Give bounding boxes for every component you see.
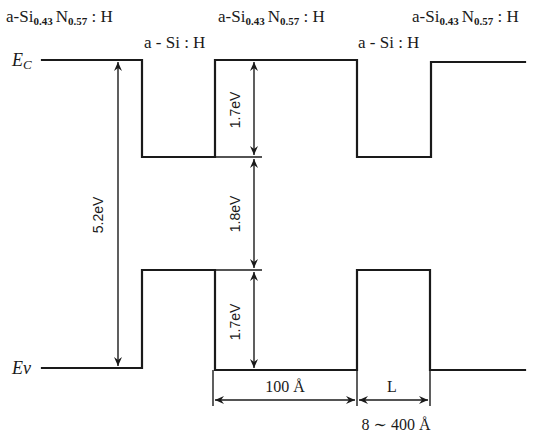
valence-band-edge bbox=[42, 270, 525, 370]
label-ec: EC bbox=[11, 50, 32, 72]
label-barrier-left: a-Si0.43N0.57 : H bbox=[6, 7, 113, 27]
label-well-left: a - Si : H bbox=[144, 33, 205, 52]
value-barrier-width: 100 Å bbox=[265, 378, 305, 395]
conduction-band-edge bbox=[42, 60, 525, 157]
value-well-gap: 1.8eV bbox=[227, 195, 243, 232]
value-well-width-range: 8 ∼ 400 Å bbox=[362, 416, 431, 433]
label-barrier-right: a-Si0.43N0.57 : H bbox=[412, 7, 519, 27]
label-ev: Ev bbox=[11, 358, 31, 378]
value-conduction-offset: 1.7eV bbox=[227, 91, 243, 128]
value-barrier-gap: 5.2eV bbox=[90, 196, 106, 233]
value-valence-offset: 1.7eV bbox=[227, 303, 243, 340]
value-well-width-label: L bbox=[387, 378, 397, 395]
label-well-right: a - Si : H bbox=[358, 33, 419, 52]
label-barrier-mid: a-Si0.43N0.57 : H bbox=[218, 7, 325, 27]
band-diagram: a-Si0.43N0.57 : H a-Si0.43N0.57 : H a-Si… bbox=[0, 0, 552, 446]
